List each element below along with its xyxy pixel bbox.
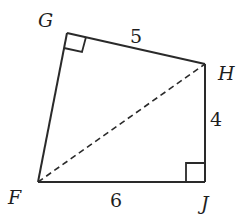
vertex-label-F: F (7, 186, 22, 208)
vertex-label-J: J (197, 192, 210, 214)
vertex-label-H: H (217, 62, 235, 84)
side-length-HJ: 4 (210, 108, 222, 130)
side-length-FJ: 6 (110, 189, 122, 211)
diagonal-FH (38, 64, 205, 182)
side-FG (38, 33, 67, 182)
vertex-label-G: G (38, 9, 53, 31)
right-angle-marker-G (64, 37, 86, 52)
right-angle-marker-J (186, 163, 205, 182)
quadrilateral-diagram: G H J F 5 4 6 (0, 0, 239, 221)
side-length-GH: 5 (130, 25, 142, 47)
